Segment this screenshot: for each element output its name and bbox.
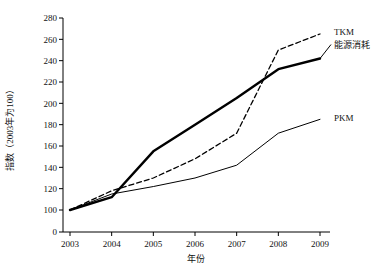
chart-container: 指数（2003年为100） 01001201401601802002202402… (0, 0, 376, 278)
x-tick-label: 2009 (311, 239, 330, 249)
x-tick-label: 2006 (186, 239, 205, 249)
y-axis-title: 指数（2003年为100） (4, 85, 15, 171)
y-tick-label: 200 (44, 99, 58, 109)
y-tick-label: 140 (44, 163, 58, 173)
series-label-2: PKM (334, 113, 354, 123)
y-tick-label: 100 (44, 205, 58, 215)
series-label-0: TKM (334, 27, 354, 37)
x-tick-label: 2007 (228, 239, 247, 249)
x-tick-label: 2008 (269, 239, 288, 249)
y-tick-label: 280 (44, 13, 58, 23)
x-axis-title: 年份 (187, 253, 205, 264)
x-tick-label: 2005 (144, 239, 163, 249)
x-tick-label: 2003 (61, 239, 80, 249)
y-tick-label: 0 (53, 227, 58, 237)
y-tick-label: 180 (44, 120, 58, 130)
y-tick-label: 260 (44, 35, 58, 45)
y-tick-label: 160 (44, 141, 58, 151)
y-tick-label: 120 (44, 184, 58, 194)
y-tick-label: 220 (44, 77, 58, 87)
line-chart: 指数（2003年为100） 01001201401601802002202402… (0, 0, 376, 278)
x-tick-label: 2004 (103, 239, 122, 249)
y-tick-label: 240 (44, 56, 58, 66)
series-label-1: 能源消耗 (334, 39, 370, 50)
